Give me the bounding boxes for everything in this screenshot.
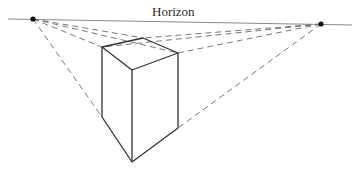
cube bbox=[102, 38, 178, 162]
construction-line bbox=[33, 19, 178, 53]
construction-line bbox=[33, 19, 143, 38]
horizon-label: Horizon bbox=[152, 4, 195, 19]
cube-edge-bottom-left bbox=[102, 117, 132, 162]
left-vanishing-point bbox=[30, 16, 35, 21]
perspective-diagram: Horizon bbox=[0, 0, 361, 173]
construction-line bbox=[178, 24, 321, 128]
cube-edge-bottom-right bbox=[132, 128, 178, 162]
construction-line bbox=[102, 24, 321, 47]
left-vp-construction-lines bbox=[33, 19, 178, 117]
construction-line bbox=[178, 24, 321, 53]
horizon-line bbox=[8, 19, 352, 25]
construction-line bbox=[33, 19, 102, 117]
right-vanishing-point bbox=[318, 21, 323, 26]
construction-line bbox=[143, 24, 321, 38]
